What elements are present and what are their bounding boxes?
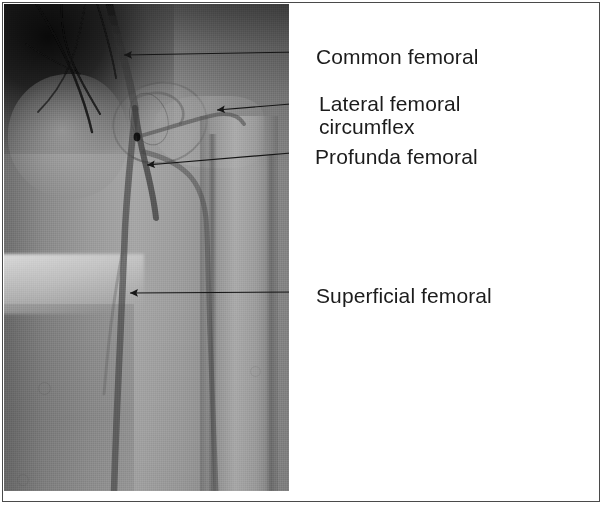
angiogram-figure: Common femoral Lateral femoral circumfle… [0,0,604,506]
label-lateral-femoral-circumflex: Lateral femoral circumflex [319,92,461,138]
label-superficial-femoral: Superficial femoral [316,284,492,307]
label-profunda-femoral: Profunda femoral [315,145,478,168]
label-common-femoral: Common femoral [316,45,478,68]
label-lateral-femoral-line1: Lateral femoral [319,92,461,115]
label-column: Common femoral Lateral femoral circumfle… [289,4,600,491]
leader-line-superficial-femoral [130,292,303,293]
leader-line-profunda-femoral [147,152,303,165]
label-lateral-femoral-line2: circumflex [319,115,461,138]
leader-line-common-femoral [124,52,303,55]
